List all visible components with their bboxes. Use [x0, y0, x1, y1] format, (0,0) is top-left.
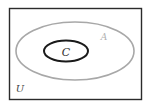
universe-label: U	[16, 84, 24, 94]
set-a-label: A	[101, 33, 108, 42]
venn-diagram: C A U	[0, 0, 148, 109]
set-a-ellipse	[16, 22, 134, 80]
set-c-label: C	[62, 47, 70, 58]
